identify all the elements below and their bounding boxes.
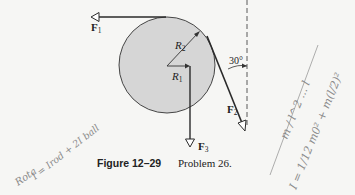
svg-text:I = 1/12 m0² + m(l/2)²: I = 1/12 m0² + m(l/2)² — [286, 71, 345, 192]
physics-figure: F1 R2 R1 F3 F2 30° Figure 12–29 Problem … — [0, 0, 355, 195]
label-f1: F1 — [91, 21, 102, 35]
disk — [119, 17, 215, 113]
figure-caption: Problem 26. — [178, 157, 232, 169]
angle-label: 30° — [229, 55, 243, 66]
figure-number: Figure 12–29 — [97, 157, 161, 169]
label-f2: F2 — [227, 103, 238, 117]
handwritten-equation-right: I = 1/12 m0² + m(l/2)² — [286, 71, 345, 192]
force-f2-arrow — [207, 36, 246, 131]
label-f3: F3 — [198, 140, 209, 154]
handwritten-equation-left: I = Irod + 2I ball — [29, 122, 102, 182]
svg-text:I = Irod + 2I ball: I = Irod + 2I ball — [29, 122, 102, 182]
